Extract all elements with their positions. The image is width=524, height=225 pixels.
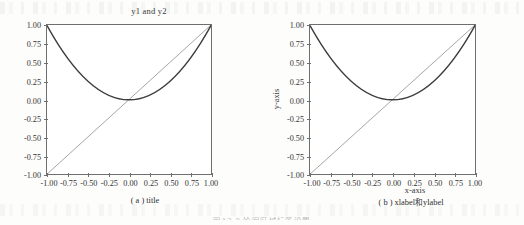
x-tick bbox=[68, 173, 69, 177]
y-axis-label-b: y-axis bbox=[272, 89, 281, 109]
y-tick-label: -1.00 bbox=[24, 171, 41, 180]
y-tick bbox=[44, 44, 48, 45]
x-tick bbox=[212, 173, 213, 177]
series-y1-parabola-b bbox=[310, 25, 475, 99]
subfigure-caption-b-cjk: 和 bbox=[415, 198, 423, 207]
y-tick bbox=[44, 82, 48, 83]
y-tick-label: 0.50 bbox=[27, 58, 41, 67]
y-tick bbox=[307, 44, 311, 45]
x-tick bbox=[171, 173, 172, 177]
x-tick-label: 0.50 bbox=[164, 179, 178, 188]
x-tick bbox=[455, 173, 456, 177]
y-tick-label: 1.00 bbox=[290, 21, 304, 30]
plot-curves-b bbox=[310, 25, 475, 174]
x-tick bbox=[310, 173, 311, 177]
x-tick-label: 1.00 bbox=[204, 179, 218, 188]
x-tick bbox=[150, 173, 151, 177]
y-tick bbox=[307, 157, 311, 158]
y-tick-label: -0.50 bbox=[24, 134, 41, 143]
y-tick bbox=[307, 101, 311, 102]
y-tick-label: 0.75 bbox=[290, 39, 304, 48]
y-tick-label: 1.00 bbox=[27, 21, 41, 30]
x-tick bbox=[47, 173, 48, 177]
x-tick bbox=[331, 173, 332, 177]
y-tick bbox=[307, 25, 311, 26]
x-tick bbox=[476, 173, 477, 177]
x-axis-label-b: x-axis bbox=[262, 186, 524, 195]
y-tick bbox=[44, 101, 48, 102]
x-tick bbox=[352, 173, 353, 177]
plot-curves-a bbox=[47, 25, 211, 174]
y-tick bbox=[44, 119, 48, 120]
y-tick-label: 0.50 bbox=[290, 58, 304, 67]
x-tick bbox=[435, 173, 436, 177]
plot-axes-a: 1.00 0.75 0.50 0.25 0.00 -0.25 -0.50 -0.… bbox=[46, 24, 212, 175]
x-tick-label: -0.50 bbox=[80, 179, 97, 188]
x-tick bbox=[414, 173, 415, 177]
x-tick bbox=[372, 173, 373, 177]
y-tick bbox=[307, 63, 311, 64]
y-tick bbox=[307, 138, 311, 139]
figure-container: y1 and y2 1.00 bbox=[0, 0, 524, 225]
y-tick-label: -0.25 bbox=[24, 115, 41, 124]
x-tick bbox=[109, 173, 110, 177]
plot-axes-b: 1.00 0.75 0.50 0.25 0.00 -0.25 -0.50 -0.… bbox=[309, 24, 476, 175]
y-tick bbox=[44, 63, 48, 64]
y-tick-label: -0.25 bbox=[287, 115, 304, 124]
y-tick-label: -0.75 bbox=[24, 153, 41, 162]
x-tick-label: -0.75 bbox=[60, 179, 77, 188]
chart-panel-a: y1 and y2 1.00 bbox=[0, 0, 262, 212]
y-tick bbox=[307, 82, 311, 83]
y-tick-label: -1.00 bbox=[287, 171, 304, 180]
y-tick-label: 0.25 bbox=[27, 77, 41, 86]
subfigure-caption-b-prefix: ( b ) xlabel bbox=[379, 198, 416, 207]
subfigure-caption-b-suffix: ylabel bbox=[423, 198, 443, 207]
x-tick bbox=[130, 173, 131, 177]
y-tick bbox=[44, 25, 48, 26]
x-tick-label: 0.00 bbox=[123, 179, 137, 188]
x-tick bbox=[88, 173, 89, 177]
y-tick-label: -0.50 bbox=[287, 134, 304, 143]
chart-title-a: y1 and y2 bbox=[0, 6, 280, 16]
scanned-page: y1 and y2 1.00 bbox=[0, 0, 524, 225]
subfigure-caption-a: ( a ) title bbox=[0, 196, 276, 205]
x-tick bbox=[191, 173, 192, 177]
subfigure-caption-b: ( b ) xlabel和ylabel bbox=[262, 196, 524, 207]
x-tick-label: 0.75 bbox=[185, 179, 199, 188]
series-y1-parabola-a bbox=[47, 25, 211, 99]
y-tick-label: -0.75 bbox=[287, 153, 304, 162]
y-tick bbox=[44, 138, 48, 139]
y-tick bbox=[307, 119, 311, 120]
x-tick-label: -0.25 bbox=[101, 179, 118, 188]
y-tick bbox=[44, 157, 48, 158]
x-tick-label: -1.00 bbox=[40, 179, 57, 188]
y-tick-label: 0.25 bbox=[290, 77, 304, 86]
y-tick-label: 0.00 bbox=[27, 96, 41, 105]
y-tick-label: 0.00 bbox=[290, 96, 304, 105]
y-tick-label: 0.75 bbox=[27, 39, 41, 48]
x-tick-label: 0.25 bbox=[144, 179, 158, 188]
x-tick bbox=[393, 173, 394, 177]
figure-caption: 图17-2 绘图区域标签设置 bbox=[0, 215, 524, 225]
chart-panel-b: y-axis 1.00 bbox=[262, 0, 524, 212]
